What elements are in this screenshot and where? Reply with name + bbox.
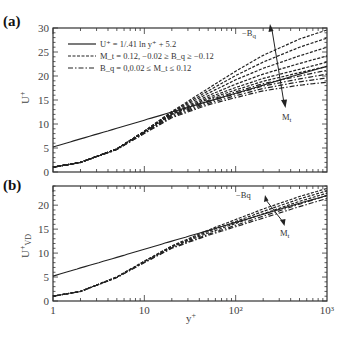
panel-b-bq-label: −Bq — [236, 190, 251, 200]
panel-a: (a) 051015202530 U+ U⁺ = 1/.41 ln y⁺ + 5… — [3, 13, 327, 178]
y-tick-label: 0 — [44, 166, 50, 178]
y-tick-label: 15 — [38, 223, 50, 235]
x-axis-label: y+ — [186, 311, 197, 324]
panel-a-mt-label: Mt — [282, 112, 292, 124]
panel-b-y-axis-label: U+VD — [18, 234, 33, 258]
y-tick-label: 15 — [38, 94, 50, 106]
panel-a-bq-label: −Bq — [242, 28, 256, 40]
y-tick-label: 5 — [44, 271, 50, 283]
y-tick-label: 30 — [38, 22, 50, 34]
panel-a-arrow: −Bq Mt — [242, 24, 292, 124]
y-tick-label: 5 — [44, 142, 50, 154]
legend-item-2: M_t = 0.12, −0.02 ≥ B_q ≥ −0.12 — [100, 51, 214, 61]
series-line — [53, 199, 327, 297]
y-tick-label: 20 — [38, 70, 50, 82]
series-line — [53, 78, 327, 167]
panel-b: (b) 05101520 11010²10³ U+VD −Bq Mt y+ — [3, 177, 335, 324]
panel-b-frame — [53, 186, 327, 301]
legend-item-1: U⁺ = 1/.41 ln y⁺ + 5.2 — [100, 39, 176, 49]
panel-b-curves — [53, 188, 327, 296]
arrow-down-icon-b — [280, 219, 286, 226]
series-line — [53, 82, 327, 167]
y-tick-label: 25 — [38, 46, 50, 58]
arrow-down-icon — [281, 100, 287, 109]
x-tick-label: 1 — [50, 304, 56, 316]
panel-a-label: (a) — [3, 13, 21, 30]
panel-b-label: (b) — [3, 177, 21, 194]
x-tick-label: 10 — [139, 304, 151, 316]
panel-a-trend-line — [272, 30, 284, 103]
series-line — [53, 191, 327, 296]
x-tick-label: 10² — [229, 304, 244, 316]
y-tick-label: 0 — [44, 295, 50, 307]
y-tick-label: 10 — [38, 247, 50, 259]
x-tick-label: 10³ — [320, 304, 335, 316]
figure: (a) 051015202530 U+ U⁺ = 1/.41 ln y⁺ + 5… — [0, 0, 350, 343]
panel-b-mt-label: Mt — [280, 228, 290, 240]
legend: U⁺ = 1/.41 ln y⁺ + 5.2 M_t = 0.12, −0.02… — [68, 39, 214, 73]
legend-item-3: B_q = 0,0.02 ≤ M_t ≤ 0.12 — [100, 63, 191, 73]
panel-a-y-axis-label: U+ — [18, 91, 31, 104]
arrow-up-icon-b — [264, 195, 269, 202]
panel-b-arrow: −Bq Mt — [236, 190, 290, 240]
y-tick-label: 10 — [38, 118, 50, 130]
y-tick-label: 20 — [38, 199, 50, 211]
